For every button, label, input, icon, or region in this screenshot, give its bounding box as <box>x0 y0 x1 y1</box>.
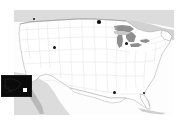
marker-mountain-west[interactable] <box>53 46 56 49</box>
inset-map-svg <box>2 76 31 96</box>
inset-marker[interactable] <box>23 88 27 92</box>
marker-great-lakes[interactable] <box>125 42 128 45</box>
marker-northern-plains[interactable] <box>97 20 101 24</box>
alaska-inset-panel[interactable] <box>1 75 32 97</box>
marker-gulf-south[interactable] <box>113 91 116 94</box>
map-canvas[interactable] <box>14 10 174 115</box>
usa-map-svg <box>14 10 174 115</box>
map-figure <box>0 0 188 130</box>
caribbean-islands <box>138 108 166 115</box>
